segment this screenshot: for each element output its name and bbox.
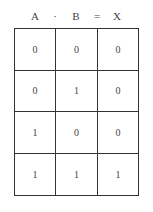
cell-a: 1 [15, 112, 56, 154]
cell-b: 0 [56, 29, 98, 71]
cell-x: 1 [98, 154, 138, 196]
cell-b: 1 [56, 71, 98, 113]
cell-x: 0 [98, 29, 138, 71]
and-operator: · [49, 9, 61, 23]
output-x-label: X [111, 9, 123, 23]
cell-b: 1 [56, 154, 98, 196]
cell-a: 0 [15, 71, 56, 113]
cell-b: 0 [56, 112, 98, 154]
cell-a: 1 [15, 154, 56, 196]
input-a-label: A [29, 9, 41, 23]
equation-header: A · B = X [14, 9, 140, 23]
cell-x: 0 [98, 71, 138, 113]
truth-table: 0 0 0 0 1 0 1 0 0 1 1 1 [14, 28, 139, 196]
equals-sign: = [91, 9, 103, 23]
cell-a: 0 [15, 29, 56, 71]
input-b-label: B [70, 9, 82, 23]
cell-x: 0 [98, 112, 138, 154]
